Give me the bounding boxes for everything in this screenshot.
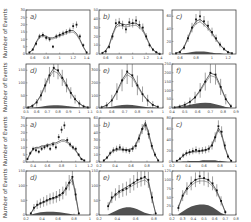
data-point [208,148,210,150]
data-point [191,27,193,29]
data-point [66,84,68,86]
y-tick-label: 40 [93,17,98,21]
data-point [122,149,124,151]
histogram-panel-r3-b: 0.20.40.60.810102030405060b) [91,117,167,171]
data-point [108,46,110,48]
data-point [218,125,220,127]
y-tick-label: 20 [166,40,171,44]
y-axis-label-row2: Number of Events [2,62,14,112]
fit-curve [175,73,231,107]
x-tick-label: 0.9 [66,110,72,114]
alt-fit-curve [175,76,231,108]
y-tick-label: 25 [20,16,25,20]
data-point [125,28,127,30]
x-tick-label: 0.7 [122,110,128,114]
x-tick-label: 1 [235,164,237,168]
data-point [62,192,64,194]
x-tick-label: 0.5 [182,110,188,114]
data-point [62,33,64,35]
x-tick-label: 0.6 [212,217,218,221]
y-tick-label: 20 [20,131,25,135]
x-tick-label: 1.4 [157,56,163,60]
data-point [49,74,51,76]
y-tick-label: 250 [164,62,172,66]
data-point [189,151,191,153]
y-tick-label: 60 [166,14,171,18]
data-point [111,197,113,199]
y-tick-label: 20 [20,23,25,27]
alt-fit-curve [102,75,158,108]
data-point [43,201,45,203]
histogram-panel-r2-d: 0.50.60.70.80.911.1050100150d) [18,63,94,117]
data-point [38,151,40,153]
data-point [141,128,143,130]
y-tick-label: 0 [96,52,99,56]
data-point [192,150,194,152]
data-point [152,104,154,106]
y-tick-label: 150 [91,169,99,173]
y-tick-label: 150 [18,169,26,173]
y-tick-label: 5 [23,45,25,49]
data-point [147,179,149,181]
x-tick-label: 0.6 [34,110,40,114]
background-distribution [108,207,156,215]
data-point [135,20,137,22]
histogram-panel-top-c: 0.60.811.20204060c) [164,9,240,63]
data-point [195,149,197,151]
data-point [68,182,70,184]
data-point [204,81,206,83]
y-tick-label: 80 [166,116,171,120]
data-point [36,102,38,104]
data-point [137,84,139,86]
data-point [58,136,60,138]
x-tick-label: 1 [211,56,213,60]
data-point [66,31,68,33]
x-tick-label: 0.9 [147,110,153,114]
data-point [116,91,118,93]
data-point [194,97,196,99]
data-point [57,69,59,71]
data-point [65,188,67,190]
panel-label: d) [30,67,37,75]
panel-label: b) [103,13,110,21]
y-tick-label: 25 [166,204,171,208]
data-point [40,95,42,97]
data-point [30,213,32,215]
x-tick-label: 0.6 [177,56,183,60]
y-tick-label: 40 [166,138,171,142]
data-point [157,160,159,162]
data-point [155,213,157,215]
data-point [109,152,111,154]
alt-fit-curve [29,32,86,52]
x-tick-label: 1.4 [84,56,90,60]
x-tick-label: 0.8 [135,110,141,114]
data-point [212,182,214,184]
data-point [32,49,34,51]
y-tick-label: 0 [169,52,172,56]
data-point [138,138,140,140]
y-tick-label: 50 [20,199,25,203]
data-point [135,145,137,147]
data-point [29,152,31,154]
y-tick-label: 10 [20,146,25,150]
data-point [131,74,133,76]
data-point [118,191,120,193]
data-point [199,90,201,92]
data-point [207,179,209,181]
data-point [202,150,204,152]
data-point [106,105,108,107]
data-point [151,145,153,147]
y-tick-label: 20 [93,146,98,150]
y-tick-label: 100 [164,178,172,182]
data-point [152,49,154,51]
data-point [118,21,120,23]
y-tick-label: 10 [93,43,98,47]
x-tick-label: 0.4 [114,217,120,221]
alt-fit-curve [102,25,159,54]
x-tick-label: 0.6 [133,217,139,221]
data-point [148,133,150,135]
data-point [106,157,108,159]
y-tick-label: 5 [23,153,25,157]
background-distribution [102,105,158,108]
x-tick-label: 0.4 [112,164,118,168]
